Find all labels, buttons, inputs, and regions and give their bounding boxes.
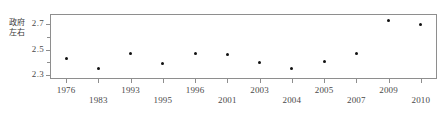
x-tick-label: 1983 (81, 95, 115, 105)
x-tick-mark (98, 79, 99, 83)
x-tick-mark (163, 79, 164, 83)
y-tick-mark (46, 50, 50, 51)
x-tick-label: 2010 (404, 95, 438, 105)
data-point (355, 52, 358, 55)
x-tick-mark (260, 79, 261, 83)
x-tick-label: 1976 (49, 85, 83, 95)
x-tick-label: 1996 (178, 85, 212, 95)
x-tick-mark (131, 79, 132, 83)
y-tick-label: 2.3 (20, 69, 44, 79)
scatter-chart-figure: 政府左右 2.72.52.3 1976198319931995199620012… (0, 0, 446, 113)
x-tick-mark (389, 79, 390, 83)
x-tick-label: 2001 (210, 95, 244, 105)
x-tick-mark (356, 79, 357, 83)
data-point (387, 19, 390, 22)
x-tick-label: 2004 (275, 95, 309, 105)
x-tick-label: 1993 (114, 85, 148, 95)
plot-area (50, 14, 437, 79)
x-tick-mark (324, 79, 325, 83)
y-tick-label: 2.5 (20, 44, 44, 54)
data-point (194, 52, 197, 55)
x-tick-mark (227, 79, 228, 83)
x-tick-label: 2005 (307, 85, 341, 95)
y-minor-tick-mark (47, 37, 50, 38)
y-minor-tick-mark (47, 62, 50, 63)
x-tick-label: 2009 (372, 85, 406, 95)
data-point (323, 60, 326, 63)
x-tick-label: 2007 (339, 95, 373, 105)
x-tick-mark (195, 79, 196, 83)
x-tick-mark (421, 79, 422, 83)
y-tick-label: 2.7 (20, 18, 44, 28)
x-tick-label: 1995 (146, 95, 180, 105)
data-point (65, 57, 68, 60)
x-tick-mark (292, 79, 293, 83)
x-tick-label: 2003 (243, 85, 277, 95)
y-tick-mark (46, 75, 50, 76)
x-tick-mark (66, 79, 67, 83)
y-tick-mark (46, 24, 50, 25)
